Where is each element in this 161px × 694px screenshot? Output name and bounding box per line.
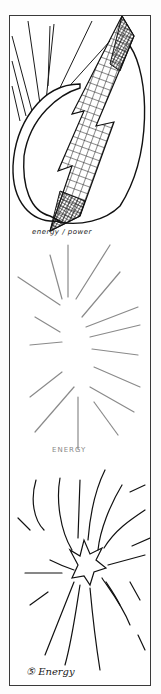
starburst-illustration — [10, 460, 151, 686]
pencil-burst-illustration — [10, 237, 151, 461]
panel-energy-power: energy / power — [9, 15, 151, 238]
panel-caption: ENERGY — [52, 446, 86, 454]
panel-energy-pencil: ENERGY — [9, 237, 151, 461]
panel-caption: energy / power — [32, 228, 92, 236]
sketch-sheet: energy / power ENE — [0, 0, 161, 694]
lightning-bolt-illustration — [10, 16, 151, 238]
panel-energy-starburst: ⑤ Energy — [9, 460, 151, 686]
panel-caption: ⑤ Energy — [26, 666, 75, 677]
